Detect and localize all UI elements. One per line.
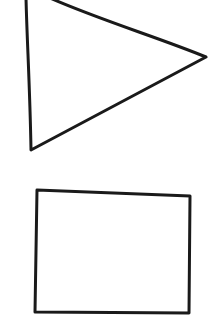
sketch-canvas: [0, 0, 220, 336]
